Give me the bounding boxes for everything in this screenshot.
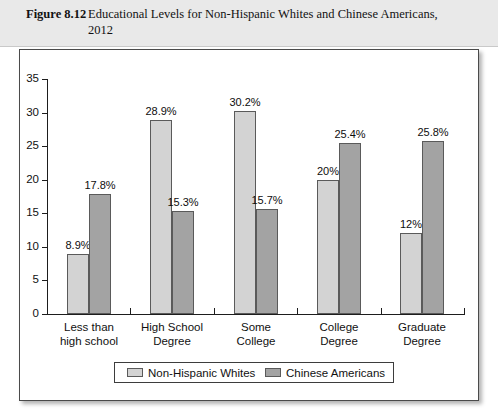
x-axis-category-line: high school	[41, 334, 137, 348]
bar	[256, 209, 278, 314]
x-axis-category-line: College	[208, 334, 304, 348]
y-axis-line	[47, 79, 48, 315]
x-axis-category-line: Some	[208, 320, 304, 334]
bar-value-label: 15.3%	[163, 196, 203, 208]
bar	[89, 194, 111, 314]
y-axis-label: 0	[20, 307, 39, 319]
x-axis-category-line: High School	[124, 320, 220, 334]
bar-value-label: 30.2%	[225, 96, 265, 108]
bar-value-label: 28.9%	[141, 105, 181, 117]
chart-frame: 05101520253035 8.9%17.8%28.9%15.3%30.2%1…	[19, 49, 479, 401]
x-axis-category-line: College	[291, 320, 387, 334]
x-axis-category-line: Less than	[41, 320, 137, 334]
x-tick-mark	[47, 308, 48, 315]
y-axis-label: 35	[20, 72, 39, 84]
figure-caption-band: Figure 8.12Educational Levels for Non-Hi…	[0, 0, 498, 47]
y-axis-label: 20	[20, 173, 39, 185]
legend-item: Non-Hispanic Whites	[127, 366, 255, 380]
legend-swatch	[127, 368, 143, 377]
x-axis-category-line: Graduate	[374, 320, 470, 334]
x-tick-mark	[464, 308, 465, 315]
y-tick-mark	[42, 213, 47, 214]
bar-chart-plot: 05101520253035 8.9%17.8%28.9%15.3%30.2%1…	[20, 50, 478, 400]
y-axis-label: 10	[20, 240, 39, 252]
bar	[317, 180, 339, 314]
x-axis-category-line: Degree	[374, 334, 470, 348]
bar	[339, 143, 361, 314]
figure-caption: Figure 8.12Educational Levels for Non-Hi…	[26, 7, 476, 38]
x-axis-category-label: CollegeDegree	[291, 320, 387, 348]
bar	[400, 233, 422, 314]
y-tick-mark	[42, 113, 47, 114]
x-axis-category-label: Less thanhigh school	[41, 320, 137, 348]
bar-value-label: 25.8%	[413, 126, 453, 138]
y-axis-label: 30	[20, 106, 39, 118]
y-axis-label: 25	[20, 139, 39, 151]
y-axis-label: 15	[20, 206, 39, 218]
chart-legend: Non-Hispanic WhitesChinese Americans	[114, 362, 394, 383]
x-tick-mark	[214, 308, 215, 315]
x-tick-mark	[130, 308, 131, 315]
y-axis-label: 5	[20, 273, 39, 285]
legend-label: Chinese Americans	[286, 367, 385, 379]
bar-value-label: 17.8%	[80, 179, 120, 191]
bar	[422, 141, 444, 314]
x-axis-category-label: GraduateDegree	[374, 320, 470, 348]
x-axis-category-label: High SchoolDegree	[124, 320, 220, 348]
y-tick-mark	[42, 247, 47, 248]
x-axis-category-line: Degree	[291, 334, 387, 348]
x-tick-mark	[297, 308, 298, 315]
bar	[172, 211, 194, 314]
y-tick-mark	[42, 146, 47, 147]
x-axis-category-label: SomeCollege	[208, 320, 304, 348]
bar	[234, 111, 256, 314]
y-tick-mark	[42, 280, 47, 281]
bar	[67, 254, 89, 314]
legend-label: Non-Hispanic Whites	[148, 367, 255, 379]
legend-swatch	[265, 368, 281, 377]
legend-item: Chinese Americans	[265, 366, 385, 380]
bar-value-label: 25.4%	[330, 128, 370, 140]
y-tick-mark	[42, 180, 47, 181]
x-axis-category-line: Degree	[124, 334, 220, 348]
bar-value-label: 15.7%	[247, 194, 287, 206]
bar	[150, 120, 172, 314]
y-tick-mark	[42, 79, 47, 80]
figure-title: Educational Levels for Non-Hispanic Whit…	[88, 7, 458, 38]
x-axis-line	[47, 314, 464, 315]
figure-number: Figure 8.12	[26, 7, 88, 23]
x-tick-mark	[381, 308, 382, 315]
